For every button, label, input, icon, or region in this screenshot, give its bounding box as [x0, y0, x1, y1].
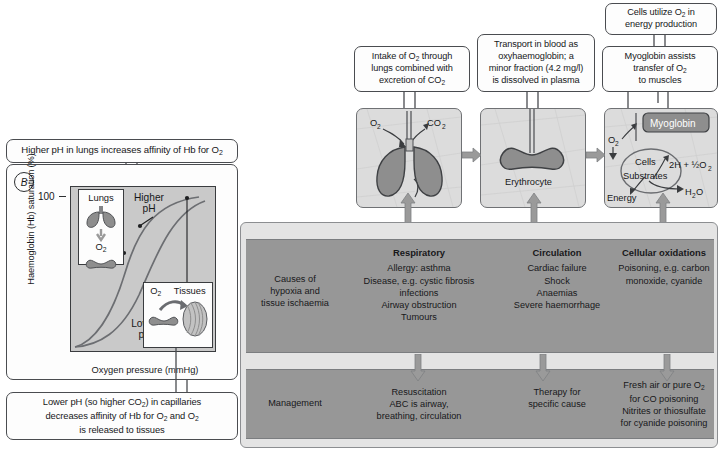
column-cellular-management: Fresh air or pure O2 for CO poisoning Ni… [607, 379, 721, 429]
higher-ph-callout-text: Higher pH in lungs increases affinity of… [21, 144, 222, 158]
row-label-management: Management [249, 397, 341, 409]
myoglobin-line-2: transfer of O2 [633, 63, 686, 75]
header-circulation: Circulation [491, 247, 623, 259]
column-cellular-causes: Cellular oxidations Poisoning, e.g. carb… [609, 247, 719, 287]
header-respiratory: Respiratory [345, 247, 493, 259]
svg-text:Energy: Energy [607, 193, 637, 203]
cellular-mgmt-line-1: Fresh air or pure O2 [607, 379, 721, 393]
arrow-lungs-to-erythrocyte [462, 146, 482, 166]
lower-ph-line-3: is released to tissues [79, 424, 164, 436]
header-cellular-oxidations: Cellular oxidations [609, 247, 719, 259]
cells-utilize-line-2: energy production [625, 19, 697, 31]
svg-text:Substrates: Substrates [623, 171, 668, 181]
callout-connector-bottom [168, 348, 198, 394]
tissues-mini-label: Tissues [174, 285, 206, 297]
column-respiratory-causes: Respiratory Allergy: asthma Disease, e.g… [345, 247, 493, 323]
curve-label-higher-ph: HigherpH [126, 192, 172, 215]
svg-text:Erythrocyte: Erythrocyte [505, 177, 552, 187]
myoglobin-callout: Myoglobin assists transfer of O2 to musc… [602, 46, 718, 92]
svg-text:2: 2 [377, 123, 381, 130]
svg-text:Myoglobin: Myoglobin [650, 118, 696, 129]
lower-ph-line-2: decreases affinity of Hb for O2 and O2 [45, 410, 198, 424]
myoglobin-line-1: Myoglobin assists [625, 51, 696, 63]
hypoxia-matrix: Causes of hypoxia and tissue ischaemia M… [240, 222, 718, 448]
higher-ph-callout: Higher pH in lungs increases affinity of… [6, 139, 238, 163]
lungs-icon [79, 203, 123, 229]
lungs-mini-gas: O2 [79, 242, 123, 254]
x-axis-label: Oxygen pressure (mmHg) [60, 365, 230, 375]
intake-line-1: Intake of O2 through [372, 51, 452, 63]
svg-text:Cells: Cells [635, 157, 656, 167]
svg-text:H: H [685, 187, 692, 197]
connector-cells-to-myoglobin [650, 34, 678, 48]
intake-line-3: excretion of CO2 [379, 75, 445, 87]
column-circulation-management: Therapy for specific cause [491, 386, 623, 410]
myoglobin-line-3: to muscles [639, 75, 682, 87]
intake-line-2: lungs combined with [371, 63, 452, 75]
cells-utilize-line-1: Cells utilize O2 in [627, 7, 695, 19]
y-axis-label: Haemoglobin (Hb) saturation (%) [26, 124, 40, 314]
up-arrow-cellular [655, 192, 671, 224]
y-axis-tick-100: 100 [38, 191, 66, 202]
up-arrow-circulation [526, 192, 542, 224]
tissue-transfer-icon [144, 297, 212, 341]
tissues-mini-gas: O2 [150, 285, 161, 297]
marker-higher-ph [138, 224, 142, 228]
svg-text:O: O [696, 187, 703, 197]
svg-text:2H + ½O: 2H + ½O [669, 160, 706, 170]
transport-callout: Transport in blood as oxyhaemoglobin; a … [477, 34, 595, 92]
transport-line-1: Transport in blood as [494, 39, 578, 51]
down-arrow-cellular [659, 354, 675, 382]
lower-ph-callout: Lower pH (so higher CO2) in capillaries … [6, 392, 238, 440]
transport-line-2: oxyhaemoglobin; a [498, 51, 573, 63]
arrow-erythrocyte-to-cells [586, 146, 606, 166]
marker-tissues [185, 196, 189, 200]
transport-line-4: is dissolved in plasma [492, 75, 579, 87]
tissues-mini-box: O2 Tissues [143, 282, 213, 348]
column-circulation-causes: Circulation Cardiac failure Shock Anaemi… [491, 247, 623, 311]
down-arrow-circulation [535, 354, 551, 382]
cells-utilize-callout: Cells utilize O2 in energy production [605, 3, 717, 35]
column-respiratory-management: Resuscitation ABC is airway, breathing, … [345, 386, 493, 422]
lungs-mini-box: Lungs O2 [78, 189, 124, 265]
erythrocyte-icon-small [79, 255, 123, 271]
intake-callout: Intake of O2 through lungs combined with… [354, 46, 470, 92]
transport-line-3: minor fraction (4.2 mg/l) [489, 63, 584, 75]
down-arrow-respiratory [410, 354, 426, 382]
svg-text:2: 2 [708, 165, 712, 172]
lower-ph-line-1: Lower pH (so higher CO2) in capillaries [43, 396, 201, 410]
svg-text:2: 2 [615, 140, 619, 147]
lungs-mini-label: Lungs [79, 192, 123, 203]
svg-text:CO: CO [427, 118, 441, 128]
row-label-causes: Causes of hypoxia and tissue ischaemia [249, 273, 341, 309]
svg-text:2: 2 [442, 123, 446, 130]
up-arrow-respiratory [400, 192, 416, 224]
